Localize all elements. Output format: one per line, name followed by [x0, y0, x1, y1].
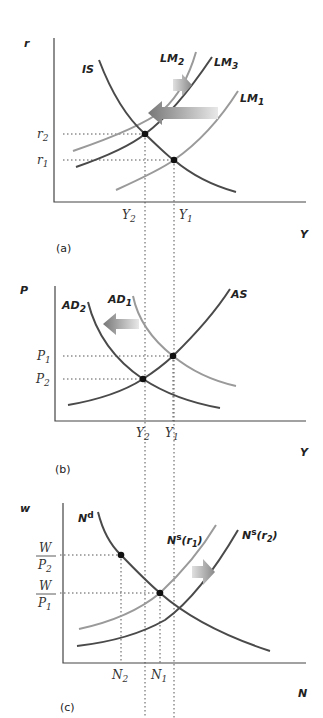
x-axis-label-n: N	[298, 687, 307, 700]
label-lm3: LM3	[214, 56, 238, 71]
equilibrium-point-1	[171, 157, 178, 164]
x-axis-label-y: Y	[300, 228, 309, 241]
equilibrium-point-1-b	[170, 353, 177, 360]
equilibrium-point-2-b	[140, 376, 147, 383]
label-ad2: AD2	[61, 299, 86, 314]
label-nd: Nd	[78, 510, 94, 525]
svg-text:W: W	[39, 579, 53, 593]
tick-w-over-p1: W P1	[36, 579, 56, 612]
tick-n1: N1	[150, 668, 167, 684]
tick-y1-b: Y1	[165, 426, 179, 442]
tick-y2: Y2	[122, 208, 136, 224]
caption-c: (c)	[60, 701, 75, 714]
economics-diagram: r Y IS LM2 LM3 LM1 r2 r1 Y2 Y1 (a) P	[0, 0, 323, 718]
label-is: IS	[82, 63, 94, 76]
tick-r2: r2	[37, 127, 49, 143]
equilibrium-point-2	[142, 131, 149, 138]
svg-text:W: W	[39, 541, 53, 555]
tick-w-over-p2: W P2	[36, 541, 56, 574]
tick-p1: P1	[36, 349, 51, 365]
point-n1	[157, 590, 164, 597]
tick-r1: r1	[37, 153, 48, 169]
tick-y1: Y1	[179, 208, 193, 224]
label-lm1: LM1	[240, 92, 264, 107]
caption-a: (a)	[56, 242, 71, 255]
label-ns-r2: Ns(r2)	[242, 527, 278, 544]
y-axis-label-w: w	[20, 502, 31, 515]
svg-text:P2: P2	[37, 558, 52, 574]
x-axis-label-y-b: Y	[300, 446, 309, 459]
tick-n2: N2	[111, 668, 129, 684]
tick-p2: P2	[35, 372, 50, 388]
svg-text:P1: P1	[37, 596, 52, 612]
panel-c: w N Nd Ns(r1) Ns(r2) W P2 W P1 N2 N1 (c)	[20, 502, 307, 714]
y-axis-label-r: r	[24, 37, 30, 50]
caption-b: (b)	[55, 463, 71, 476]
label-ad1: AD1	[107, 293, 132, 308]
tick-y2-b: Y2	[136, 426, 150, 442]
arrow-right-ns	[192, 559, 215, 585]
curve-as	[68, 289, 230, 405]
label-ns-r1: Ns(r1)	[167, 532, 203, 549]
panel-b: P Y AD2 AD1 AS P1 P2 Y2 Y1 (b)	[20, 284, 309, 476]
curve-ad1	[133, 296, 236, 386]
label-lm2: LM2	[160, 52, 184, 67]
arrow-left-large	[148, 101, 218, 125]
label-as: AS	[230, 288, 248, 301]
arrow-right-small	[173, 74, 192, 96]
point-n2	[118, 552, 125, 559]
curve-is	[99, 60, 236, 192]
curve-ad2	[88, 302, 220, 408]
y-axis-label-p: P	[20, 284, 28, 297]
axes-c	[63, 503, 306, 663]
panel-a: r Y IS LM2 LM3 LM1 r2 r1 Y2 Y1 (a)	[24, 37, 309, 718]
arrow-left-ad	[103, 313, 139, 335]
